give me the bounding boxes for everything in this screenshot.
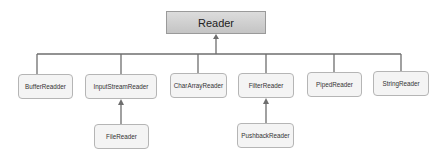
node-filereader: FileReader <box>94 124 149 149</box>
node-pushbackreader: PushbackReader <box>237 123 294 148</box>
node-bufferreadder: BufferReadder <box>18 74 73 99</box>
node-pipedreader: PipedReader <box>307 72 362 97</box>
node-filterreader: FilterReader <box>238 73 294 98</box>
node-reader: Reader <box>166 11 266 34</box>
node-inputstreamreader: InputStreamReader <box>85 74 157 99</box>
node-stringreader: StringReader <box>373 71 429 96</box>
arrow-head-icon <box>118 99 124 105</box>
arrow-head-icon <box>263 98 269 104</box>
node-chararrayreader: CharArrayReader <box>170 73 227 98</box>
reader-hierarchy-diagram: Reader BufferReadder InputStreamReader C… <box>0 0 442 161</box>
arrow-head-icon <box>213 34 219 39</box>
